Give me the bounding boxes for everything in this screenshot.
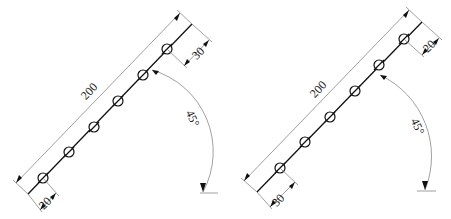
arrow-icon <box>403 10 409 18</box>
arrow-icon <box>152 70 159 75</box>
arrow-icon <box>184 59 190 66</box>
arrow-icon <box>174 13 180 21</box>
dimension-label-bottom: 30 <box>269 191 287 209</box>
dimension-label-overall: 200 <box>307 78 330 101</box>
dimension-top-offset: 20 <box>404 22 442 57</box>
figure-right: 200 20 30 45° <box>241 7 442 209</box>
arrow-icon <box>244 173 250 181</box>
arrow-icon <box>289 182 295 189</box>
arrow-icon <box>50 193 56 200</box>
dimension-overall: 200 <box>241 7 422 192</box>
dimension-label-top: 20 <box>420 37 438 55</box>
figure-left: 200 30 20 45° <box>13 10 218 212</box>
drawing-canvas: 200 30 20 45° <box>0 0 451 219</box>
dimension-angle: 45° <box>380 75 436 191</box>
dimension-top-offset: 30 <box>167 24 212 68</box>
dimension-label-top: 30 <box>189 44 207 62</box>
arrow-icon <box>203 40 209 47</box>
dimension-bottom-offset: 30 <box>257 168 298 209</box>
arrow-icon <box>380 75 387 80</box>
dimension-label-angle: 45° <box>408 116 428 137</box>
dimension-overall: 200 <box>13 10 192 194</box>
arrow-icon <box>422 181 428 190</box>
arrow-icon <box>16 175 22 183</box>
dimension-angle: 45° <box>152 70 218 193</box>
dimension-label-angle: 45° <box>183 108 203 129</box>
